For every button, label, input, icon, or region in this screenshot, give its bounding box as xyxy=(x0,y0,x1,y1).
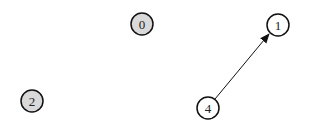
node-2-label: 2 xyxy=(29,94,36,109)
node-2[interactable]: 2 xyxy=(21,90,43,112)
node-4[interactable]: 4 xyxy=(197,97,219,119)
edge-4-to-1 xyxy=(215,34,269,99)
node-1[interactable]: 1 xyxy=(267,14,289,36)
graph-canvas: 0 1 2 4 xyxy=(0,0,309,139)
node-4-label: 4 xyxy=(205,101,212,116)
node-0-label: 0 xyxy=(139,17,146,32)
node-1-label: 1 xyxy=(275,18,282,33)
node-0[interactable]: 0 xyxy=(131,13,153,35)
